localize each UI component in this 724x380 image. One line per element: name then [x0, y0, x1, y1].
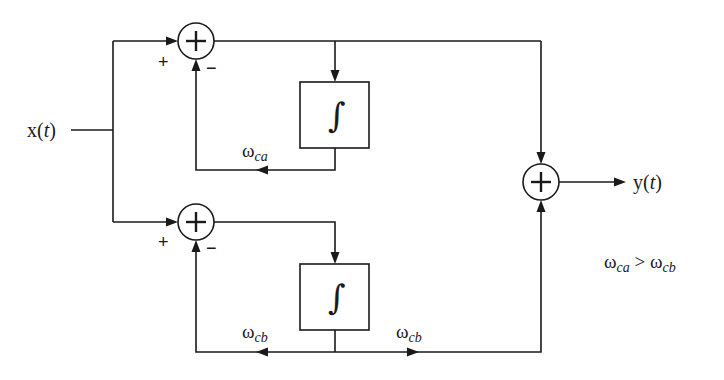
- summer-b-minus-sign: −: [206, 238, 217, 258]
- integral-icon: ∫: [328, 95, 346, 135]
- arrow-up-icon: [537, 200, 546, 212]
- input-label: x(t): [27, 119, 56, 142]
- summing-junction-b: [178, 204, 214, 240]
- output-summing-junction: [523, 164, 559, 200]
- output-label: y(t): [633, 171, 662, 194]
- arrow-right-icon: [166, 218, 178, 227]
- arrow-down-icon: [331, 70, 340, 82]
- branch-b: + − ∫ ωcb ωcb: [113, 200, 546, 357]
- summing-junction-a: [178, 23, 214, 59]
- arrow-down-icon: [537, 152, 546, 164]
- arrow-left-icon: [256, 166, 268, 175]
- integrator-b-input-wire: [214, 222, 335, 256]
- integral-icon: ∫: [328, 277, 346, 317]
- arrow-up-icon: [192, 59, 201, 71]
- summer-b-plus-sign: +: [158, 232, 169, 252]
- arrow-right-icon: [166, 37, 178, 46]
- summer-a-minus-sign: −: [206, 58, 217, 78]
- summer-a-plus-sign: +: [158, 52, 169, 72]
- cutoff-relation-annotation: ωca > ωcb: [604, 251, 676, 275]
- feedback-gain-a-label: ωca: [242, 140, 268, 164]
- arrow-down-icon: [331, 252, 340, 264]
- arrow-left-icon: [256, 348, 268, 357]
- feedback-gain-b-label: ωcb: [242, 321, 268, 345]
- block-diagram: x(t) + − ∫ ωca: [0, 0, 724, 380]
- arrow-up-icon: [192, 240, 201, 252]
- arrow-right-icon: [407, 348, 419, 357]
- branch-a: + − ∫ ωca: [113, 23, 546, 175]
- forward-gain-b-label: ωcb: [396, 321, 422, 345]
- arrow-right-icon: [614, 178, 626, 187]
